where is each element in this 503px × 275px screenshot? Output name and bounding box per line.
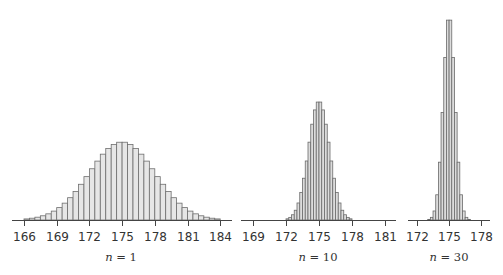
histogram-bar [177, 203, 182, 220]
histogram-bar [297, 203, 300, 220]
histogram-bar [62, 203, 67, 220]
histogram-bar [333, 178, 336, 220]
histogram-bar [209, 218, 214, 220]
histogram-bar [322, 110, 325, 220]
x-tick-label: 175 [111, 230, 134, 244]
histogram-bar [166, 191, 171, 220]
histogram-bar [325, 124, 328, 220]
x-tick-label: 166 [13, 230, 36, 244]
histogram-bar [314, 110, 317, 220]
panel-label-n1: n = 1 [105, 250, 137, 264]
histogram-bar [457, 162, 460, 220]
histogram-bar [308, 142, 311, 220]
histogram-bar [89, 169, 94, 220]
x-tick-label: 178 [144, 230, 167, 244]
histogram-bar [286, 219, 289, 220]
x-tick-label: 178 [341, 230, 364, 244]
histogram-bar [330, 161, 333, 220]
histogram-bar [133, 148, 138, 220]
histogram-bar [316, 102, 319, 220]
histogram-bar [117, 142, 122, 220]
x-tick-label: 184 [209, 230, 232, 244]
histogram-bar [468, 219, 471, 220]
panel-label-n10: n = 10 [298, 250, 337, 264]
histogram-bar [327, 142, 330, 220]
x-tick-label: 172 [275, 230, 298, 244]
histogram-bar [349, 219, 352, 220]
histogram-bar [182, 208, 187, 220]
histogram-bar [462, 211, 465, 220]
histogram-bar [449, 20, 452, 220]
histogram-bar [344, 215, 347, 220]
histogram-bar [436, 195, 439, 220]
histogram-bar [438, 162, 441, 220]
histogram-bar [95, 161, 100, 220]
histogram-bar [188, 211, 193, 220]
histogram-bar [100, 154, 105, 220]
histogram-bar [171, 198, 176, 220]
histogram-bar [292, 215, 295, 220]
histogram-bar [193, 214, 198, 220]
histogram-bar [198, 216, 203, 220]
histogram-bar [289, 217, 292, 220]
x-tick-label: 181 [177, 230, 200, 244]
histogram-bar [446, 20, 449, 220]
histogram-bar [46, 214, 51, 220]
sampling-distribution-chart: 166169172175178181184 169172175178181 17… [0, 0, 503, 275]
histogram-panels: 166169172175178181184 169172175178181 17… [0, 0, 503, 275]
histogram-bar [338, 203, 341, 220]
histogram-bar [111, 144, 116, 220]
histogram-bar [452, 57, 455, 220]
x-tick-label: 178 [470, 230, 493, 244]
histogram-bar [149, 169, 154, 220]
histogram-bar [122, 142, 127, 220]
histogram-bar [433, 211, 436, 220]
x-tick-label: 172 [406, 230, 429, 244]
histogram-bar [57, 208, 62, 220]
histogram-bar [40, 216, 45, 220]
histogram-bar [465, 217, 468, 220]
x-tick-label: 181 [374, 230, 397, 244]
histogram-bar [336, 192, 339, 220]
histogram-bar [215, 219, 220, 220]
histogram-bar [68, 198, 73, 220]
histogram-bar [319, 102, 322, 220]
panel-label-n30: n = 30 [429, 250, 468, 264]
histogram-bar [128, 144, 133, 220]
histogram-bar [106, 148, 111, 220]
histogram-bar [294, 210, 297, 220]
histogram-bar [454, 113, 457, 220]
histogram-bar [428, 219, 431, 220]
histogram-panel-n10: 169172175178181 [241, 102, 397, 244]
histogram-bar [138, 154, 143, 220]
histogram-bar [29, 218, 34, 220]
histogram-bar [35, 217, 40, 220]
histogram-bar [303, 178, 306, 220]
histogram-bar [84, 177, 89, 220]
histogram-bar [311, 124, 314, 220]
histogram-bar [160, 184, 165, 220]
histogram-bar [341, 210, 344, 220]
histogram-bar [441, 113, 444, 220]
histogram-bar [305, 161, 308, 220]
histogram-bar [430, 217, 433, 220]
histogram-panel-n1: 166169172175178181184 [12, 142, 232, 244]
histogram-bar [24, 219, 29, 220]
histogram-bar [73, 191, 78, 220]
histogram-bar [444, 57, 447, 220]
x-tick-label: 169 [242, 230, 265, 244]
x-tick-label: 175 [438, 230, 461, 244]
histogram-bar [460, 195, 463, 220]
x-tick-label: 172 [78, 230, 101, 244]
histogram-panel-n30: 172175178 [406, 20, 493, 244]
histogram-bar [300, 192, 303, 220]
x-tick-label: 169 [46, 230, 69, 244]
histogram-bar [79, 184, 84, 220]
histogram-bar [347, 217, 350, 220]
histogram-bar [144, 161, 149, 220]
histogram-bar [51, 211, 56, 220]
histogram-bar [204, 217, 209, 220]
x-tick-label: 175 [308, 230, 331, 244]
histogram-bar [155, 177, 160, 220]
